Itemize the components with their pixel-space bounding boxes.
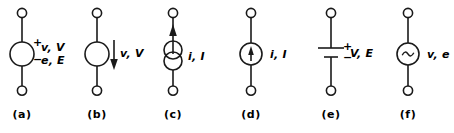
caption-f: (f): [388, 108, 428, 121]
caption-c: (c): [153, 108, 193, 121]
label-d: i, I: [270, 48, 287, 61]
caption-b: (b): [77, 108, 117, 121]
current-arrow-head: [248, 46, 254, 55]
label-b: v, V: [120, 47, 144, 60]
label-c: i, I: [188, 50, 205, 63]
label-a-top: v, V: [41, 41, 65, 54]
terminal-bottom-circle: [246, 86, 255, 95]
polarity-arrow-head: [110, 59, 118, 70]
terminal-bottom-circle: [168, 86, 177, 95]
terminal-bottom-circle: [92, 86, 101, 95]
caption-d: (d): [231, 108, 271, 121]
terminal-bottom-circle: [326, 86, 335, 95]
circuit-symbols-figure: + − v, V e, E (a) v, V (b): [0, 0, 454, 133]
caption-a: (a): [2, 108, 42, 121]
terminal-top-circle: [326, 8, 335, 17]
terminal-top-circle: [403, 8, 412, 17]
sine-wave-glyph: [402, 52, 414, 56]
source-body-circle-lower: [164, 52, 182, 70]
terminal-top-circle: [17, 8, 26, 17]
label-f: v, e: [427, 48, 450, 61]
symbol-c-current-source-double: i, I: [151, 0, 241, 105]
symbol-f-ac-source: v, e: [386, 0, 454, 105]
caption-e: (e): [311, 108, 351, 121]
terminal-bottom-circle: [403, 86, 412, 95]
terminal-top-circle: [246, 8, 255, 17]
terminal-bottom-circle: [17, 86, 26, 95]
current-arrow-head: [169, 24, 177, 36]
symbol-d-current-source: i, I: [229, 0, 319, 105]
label-a-bottom: e, E: [41, 54, 65, 67]
source-body-circle: [85, 42, 109, 66]
label-e: V, E: [350, 47, 373, 60]
terminal-top-circle: [92, 8, 101, 17]
terminal-top-circle: [168, 8, 177, 17]
source-body-circle: [10, 42, 34, 66]
